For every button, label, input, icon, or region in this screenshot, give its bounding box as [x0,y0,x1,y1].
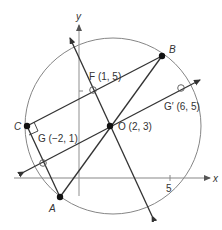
point-B [159,53,165,59]
label-A: A [48,203,56,214]
y-axis-label: y [75,11,82,22]
point-O [107,123,113,129]
label-G: G (−2, 1) [38,133,78,144]
label-F: F (1, 5) [89,71,121,82]
point-A [57,194,63,200]
coordinate-diagram: x y 5 B C A O (2, 3) F (1, 5) G (−2, 1) … [0,0,222,230]
label-G-prime: G′ (6, 5) [164,101,200,112]
label-C: C [14,121,22,132]
x-tick-label: 5 [166,183,172,194]
point-C [24,123,30,129]
label-B: B [169,44,176,55]
label-O: O (2, 3) [118,121,152,132]
x-axis-label: x [212,173,219,184]
